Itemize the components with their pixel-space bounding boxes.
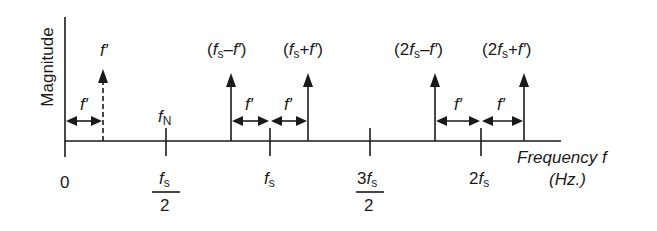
arrowhead-up-icon bbox=[519, 73, 529, 87]
svg-text:2fs: 2fs bbox=[469, 169, 489, 190]
svg-text:3fs: 3fs bbox=[357, 169, 377, 190]
y-axis-label: Magnitude bbox=[38, 27, 57, 106]
arrowhead-up-icon bbox=[303, 73, 313, 87]
svg-text:(fs+f′): (fs+f′) bbox=[283, 40, 323, 61]
aliasing-spectrum-diagram: Magnitude Frequency f (Hz.) 0 fN fs 2 fs… bbox=[0, 0, 657, 231]
spacing-arrow-0-to-fprime: f′ bbox=[66, 95, 102, 126]
component-fs-plus-fprime: (fs+f′) bbox=[283, 40, 323, 141]
component-2fs-plus-fprime: (2fs+f′) bbox=[482, 40, 531, 141]
svg-text:(fs–f′): (fs–f′) bbox=[207, 40, 246, 61]
tick-fs-half: fN fs 2 bbox=[152, 107, 180, 215]
tick-2fs: 2fs bbox=[469, 128, 489, 190]
x-axis-unit: (Hz.) bbox=[549, 170, 586, 189]
svg-text:f′: f′ bbox=[284, 95, 293, 114]
arrowhead-up-icon bbox=[226, 73, 236, 87]
svg-text:f′: f′ bbox=[497, 95, 506, 114]
svg-text:fs: fs bbox=[264, 169, 275, 190]
arrowhead-up-icon bbox=[430, 73, 440, 87]
svg-text:f′: f′ bbox=[454, 95, 463, 114]
svg-text:(2fs–f′): (2fs–f′) bbox=[394, 40, 443, 61]
spacing-arrows-fs: f′ f′ bbox=[232, 95, 307, 126]
svg-text:(2fs+f′): (2fs+f′) bbox=[482, 40, 531, 61]
svg-text:f′: f′ bbox=[245, 95, 254, 114]
origin-label: 0 bbox=[60, 173, 69, 192]
svg-text:f′: f′ bbox=[100, 41, 109, 60]
spacing-arrows-2fs: f′ f′ bbox=[436, 95, 523, 126]
component-fs-minus-fprime: (fs–f′) bbox=[207, 40, 246, 141]
component-f-prime: f′ bbox=[98, 41, 109, 141]
svg-text:f′: f′ bbox=[80, 95, 89, 114]
svg-text:2: 2 bbox=[160, 196, 169, 215]
component-2fs-minus-fprime: (2fs–f′) bbox=[394, 40, 443, 141]
arrowhead-up-icon bbox=[98, 69, 108, 83]
tick-fs: fs bbox=[264, 128, 275, 190]
x-axis-label: Frequency f bbox=[517, 148, 609, 167]
svg-text:2: 2 bbox=[364, 196, 373, 215]
nyquist-label: fN bbox=[158, 107, 171, 128]
svg-text:fs: fs bbox=[159, 169, 170, 190]
